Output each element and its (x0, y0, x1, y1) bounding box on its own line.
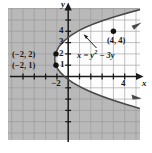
y-tick-label-1: 1 (60, 60, 65, 69)
x-tick-label-neg2: −2 (51, 79, 61, 88)
point-label-neg2-1: (−2, 1) (12, 61, 35, 70)
y-tick-label-4: 4 (59, 26, 64, 35)
point-4-4 (111, 29, 116, 34)
x-axis-label: x (142, 79, 147, 88)
point-label-neg2-2: (−2, 2) (12, 50, 35, 59)
parabola-graph (0, 0, 152, 153)
y-axis-label: y (61, 0, 65, 9)
equation-label-main: x = y (77, 50, 94, 60)
y-tick-label-3: 3 (59, 37, 64, 46)
figure-screenshot: y x 4 3 2 1 −2 4 (−2, 2) (−2, 1) (4, 4) … (0, 0, 152, 153)
equation-label-tail: − 3y (97, 50, 114, 60)
y-tick-label-2: 2 (59, 49, 64, 58)
x-tick-label-4: 4 (121, 79, 126, 88)
point-neg2-1 (53, 62, 58, 67)
point-label-4-4: (4, 4) (107, 36, 125, 45)
point-neg2-2 (53, 51, 58, 56)
equation-label: x = y2 − 3y (77, 49, 115, 59)
